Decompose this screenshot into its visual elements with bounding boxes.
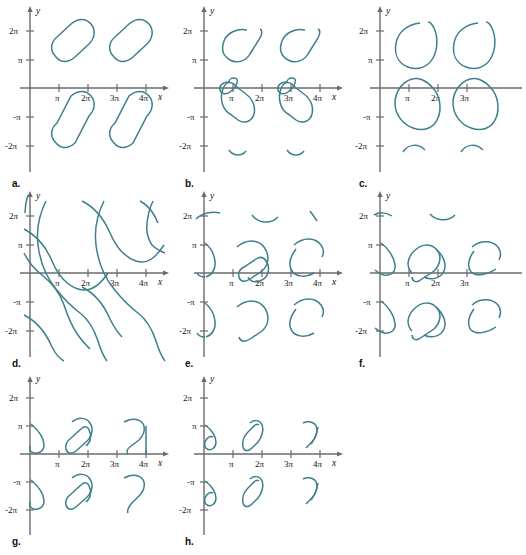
wave-family-1 [82,287,122,337]
x-tick-label-3pi: 3π [284,278,294,288]
tilted-capsule-lower [66,474,92,509]
x-tick-label-3pi: 3π [110,459,120,469]
capsule-edge [86,430,91,446]
panel-b: y x 2π π -π -2π π 2π 3π 4π [174,0,349,185]
panel-label-e: e. [185,358,193,369]
wave-family-2 [147,201,165,253]
x-axis-arrow [163,270,169,275]
large-loop [237,241,269,281]
panel-label-h: h. [185,536,194,547]
x-tick-label-pi: π [55,93,60,103]
capsule-loop [52,20,95,62]
y-tick-label-neg-pi: -π [363,112,371,122]
y-axis-arrow [201,6,206,12]
y-tick-label-neg-2pi: -2π [5,326,17,336]
x-axis-label: x [331,458,337,468]
x-axis-arrow [337,451,343,456]
x-tick-label-pi: π [229,278,234,288]
x-tick-label-4pi: 4π [313,459,323,469]
x-tick-label-4pi: 4π [139,459,149,469]
y-axis-arrow [377,191,382,197]
hook-lower-top [472,300,500,318]
y-tick-label-neg-pi: -π [187,477,195,487]
open-blob [396,22,437,69]
x-tick-label-3pi: 3π [110,93,120,103]
thin-loop [205,425,216,450]
open-capsule-arc [281,29,320,62]
x-tick-label-pi: π [55,459,60,469]
x-axis-arrow [163,451,169,456]
lower-arc [294,299,323,317]
x-tick-label-4pi: 4π [313,93,323,103]
small-hook-lower [303,478,317,504]
x-axis-label: x [157,92,163,102]
hook-inner-lower [311,483,318,500]
x-tick-label-4pi: 4π [313,278,323,288]
x-tick-label-3pi: 3π [284,459,294,469]
y-tick-label-2pi: 2π [9,211,19,221]
y-tick-label-neg-pi: -π [13,297,21,307]
y-tick-label-pi: π [192,55,197,65]
y-axis-label: y [35,6,41,16]
curves-e [196,211,323,341]
panel-label-g: g. [12,536,21,547]
y-tick-label-neg-2pi: -2π [179,505,191,515]
y-axis-arrow [201,191,206,197]
y-axis-label: y [209,6,215,16]
x-tick-label-2pi: 2π [255,93,265,103]
curves-b [220,29,320,155]
x-tick-label-3pi: 3π [460,278,470,288]
y-tick-label-neg-2pi: -2π [179,326,191,336]
x-tick-label-pi: π [405,93,410,103]
panel-d: y x 2π π -π -2π π 2π 3π 4π [0,185,175,370]
y-tick-label-2pi: 2π [359,26,369,36]
y-tick-label-2pi: 2π [9,393,19,403]
x-tick-label-4pi: 4π [139,278,149,288]
x-axis-arrow [337,270,343,275]
y-axis-arrow [377,6,382,12]
hook-right-top [472,242,500,260]
y-axis-label: y [385,191,391,201]
y-axis-arrow [27,376,32,382]
capsule-hook-lower [408,303,440,340]
axes-g: y x 2π π -π -2π π 2π 3π 4π [5,374,169,535]
axes-c: y 2π π -π -2π π 2π 3π [355,6,522,172]
s-arc-left [205,243,215,277]
y-tick-label-neg-2pi: -2π [179,141,191,151]
x-tick-label-2pi: 2π [255,459,265,469]
capsule-hook-2 [424,249,445,279]
y-axis-label: y [35,374,41,384]
small-hook-lower [30,480,44,509]
curves-c [395,22,498,152]
top-cap [430,214,455,220]
curves-f [374,213,500,340]
x-axis-label: x [331,92,337,102]
y-tick-label-neg-2pi: -2π [5,141,17,151]
small-hook [303,422,317,448]
x-axis-label: x [331,277,337,287]
x-tick-label-3pi: 3π [284,93,294,103]
y-tick-label-2pi: 2π [183,26,193,36]
x-tick-label-3pi: 3π [460,93,470,103]
y-axis-label: y [385,6,391,16]
panel-e: y x 2π π -π -2π π 2π 3π 4π [174,185,349,370]
panel-g: y x 2π π -π -2π π 2π 3π 4π [0,370,175,555]
y-tick-label-pi: π [18,240,23,250]
figure-multi-panel-plots: y x 2π π -π -2π π 2π 3π 4π [0,0,526,555]
x-tick-label-pi: π [55,278,60,288]
x-tick-label-2pi: 2π [81,459,91,469]
y-tick-label-neg-pi: -π [187,297,195,307]
capsule-loop [110,20,153,62]
y-tick-label-neg-pi: -π [13,112,21,122]
panel-f: y 2π π -π -2π π 2π 3π [350,185,525,370]
hook-right [124,419,144,454]
thin-loop-lower [205,481,216,506]
open-capsule-arc [223,29,262,62]
narrow-capsule-lower [243,477,263,507]
y-axis-label: y [35,191,41,201]
y-tick-label-pi: π [192,421,197,431]
hook-lower-bottom [469,309,496,333]
capsule-hook [408,245,440,282]
x-axis-arrow [337,85,343,90]
wave-family-2 [24,253,90,349]
